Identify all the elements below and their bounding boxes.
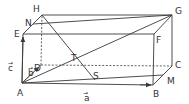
label-B: B [153, 89, 159, 99]
label-G: G [175, 6, 182, 16]
segment-NG [33, 15, 172, 24]
edge-hidden-DH [41, 15, 42, 65]
vector-arrow-a: → [83, 89, 88, 96]
label-C: C [175, 60, 181, 70]
label-E: E [14, 29, 20, 39]
vector-arrow-b: → [28, 64, 33, 71]
label-D: D [34, 63, 41, 73]
label-T: T [70, 53, 77, 63]
vector-arrow-c: → [8, 59, 13, 66]
box-diagram: A B C D E F G H N M T S c → b → a → [0, 0, 189, 104]
label-N: N [25, 18, 32, 28]
label-S: S [93, 71, 99, 81]
label-F: F [156, 35, 161, 45]
label-A: A [17, 88, 24, 98]
label-H: H [33, 4, 40, 14]
label-M: M [167, 76, 175, 86]
edge-AB [22, 83, 153, 85]
edge-FG [154, 15, 172, 34]
edge-FB [153, 34, 154, 85]
vector-c-arrow [22, 37, 23, 83]
